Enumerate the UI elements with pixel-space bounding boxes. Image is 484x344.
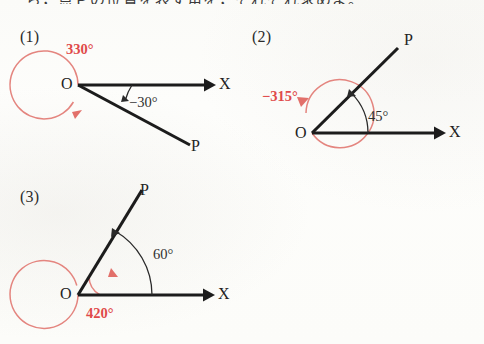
figure-2-red-angle-label: −315° xyxy=(262,88,298,105)
figure-3-red-angle-label: 420° xyxy=(86,305,114,322)
figure-2-black-angle-label: 45° xyxy=(368,108,388,125)
figure-3-black-angle-label: 60° xyxy=(153,246,173,263)
figure-2-ray-label: P xyxy=(404,31,413,49)
fig2-black-arc-45 xyxy=(352,93,368,133)
figure-1-ray-label: P xyxy=(191,137,200,155)
figure-1-number: (1) xyxy=(20,28,39,46)
figure-3-ray-label: P xyxy=(140,181,149,199)
fig3-black-arc-60 xyxy=(115,231,152,295)
fig2-red-arc-group xyxy=(297,80,374,148)
figure-3-vertex-label: O xyxy=(60,285,72,303)
figure-2-axis-label: X xyxy=(449,123,461,141)
fig1-x-arrow-head xyxy=(204,79,216,92)
figure-page: ら，点Ｐの位置を表す角を，それぞれ求めよ。 xyxy=(0,0,484,344)
figure-1-red-angle-label: 330° xyxy=(66,41,94,58)
figure-3-number: (3) xyxy=(20,188,39,206)
figure-1-black-angle-label: −30° xyxy=(129,94,157,111)
fig2-x-arrow-head xyxy=(434,127,446,140)
figure-2-vertex-label: O xyxy=(295,124,307,142)
figure-2-number: (2) xyxy=(252,28,271,46)
fig3-red-arc-inner xyxy=(89,276,100,295)
fig1-black-arc-head xyxy=(121,95,129,102)
fig2-red-arc-minus315 xyxy=(306,80,374,148)
fig3-x-arrow-head xyxy=(203,289,215,302)
figure-1-axis-label: X xyxy=(219,75,231,93)
fig3-red-arrow-head xyxy=(108,268,118,277)
figure-3-axis-label: X xyxy=(218,285,230,303)
fig3-op-ray xyxy=(78,190,142,295)
figure-1-vertex-label: O xyxy=(61,75,73,93)
fig1-red-arrow-head xyxy=(72,110,82,119)
